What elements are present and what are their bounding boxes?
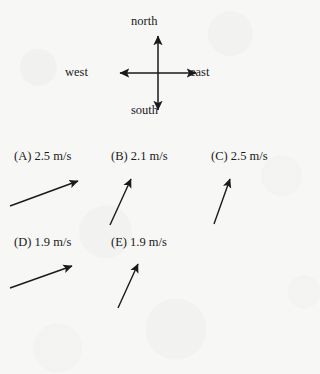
- compass-label-west: west: [65, 66, 88, 79]
- option-label-b: (B) 2.1 m/s: [111, 150, 168, 163]
- option-arrow-a: [6, 176, 92, 210]
- options-row-bottom: (D) 1.9 m/s (E) 1.9 m/s: [0, 236, 320, 316]
- question-page: north south west east (A) 2.5 m/s (B) 2.…: [0, 0, 320, 374]
- option-arrow-c: [208, 172, 254, 230]
- compass-rose-diagram: north south west east: [0, 0, 320, 128]
- option-label-d: (D) 1.9 m/s: [14, 236, 71, 249]
- option-label-c: (C) 2.5 m/s: [211, 150, 268, 163]
- compass-cross-arrows: [112, 28, 206, 118]
- option-arrow-d: [6, 260, 86, 294]
- option-arrow-e: [112, 256, 158, 314]
- option-arrow-b: [104, 172, 152, 230]
- options-row-top: (A) 2.5 m/s (B) 2.1 m/s (C) 2.5 m/s: [0, 150, 320, 234]
- compass-label-north: north: [131, 15, 157, 28]
- option-label-a: (A) 2.5 m/s: [14, 150, 71, 163]
- option-label-e: (E) 1.9 m/s: [111, 236, 167, 249]
